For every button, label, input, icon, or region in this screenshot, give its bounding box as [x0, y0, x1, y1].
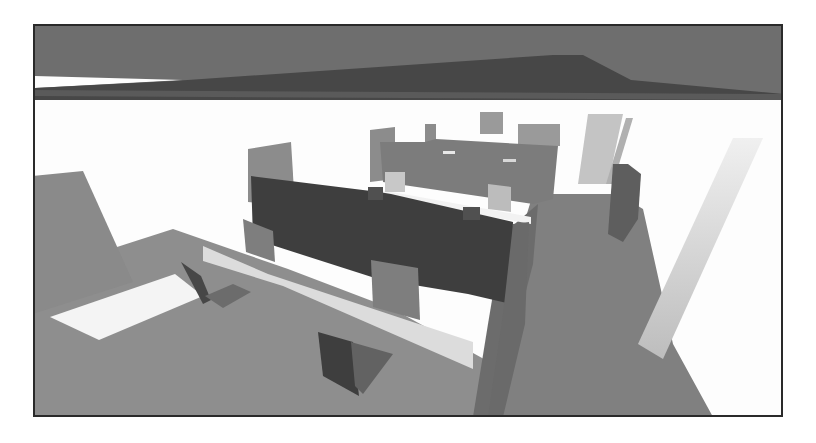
front-partition-cap-1 — [368, 187, 383, 200]
monitor-1 — [385, 172, 405, 192]
render-viewport — [33, 24, 783, 417]
monitor-2 — [488, 184, 511, 212]
back-partition-top-2 — [425, 124, 436, 142]
front-partition-cap-2 — [463, 207, 480, 220]
back-partition-slit-1 — [443, 151, 455, 154]
back-partition-top-3 — [480, 112, 503, 134]
office-scene-render — [33, 24, 783, 417]
scene-shapes — [33, 24, 783, 417]
back-partition-slit-2 — [503, 159, 516, 162]
back-partition-top-4 — [518, 124, 560, 146]
